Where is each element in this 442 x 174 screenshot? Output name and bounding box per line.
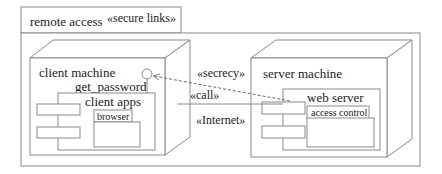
component-web-server-label: web server (307, 90, 364, 105)
access-control-body (307, 118, 374, 147)
package-name: remote access (30, 14, 103, 29)
server-node-side (387, 40, 412, 157)
node-client-machine: client machine get_password client apps … (30, 40, 190, 155)
component-port-1 (37, 104, 80, 115)
deployment-diagram: remote access «secure links» client mach… (0, 0, 442, 174)
internet-stereotype: «Internet» (196, 113, 245, 127)
browser-label: browser (97, 111, 130, 122)
component-port-2 (37, 127, 80, 138)
interface-label: get_password (75, 79, 147, 94)
access-control-label: access control (311, 107, 368, 118)
server-node-name: server machine (263, 66, 342, 81)
interface-circle-icon (142, 69, 152, 79)
server-node-top (251, 40, 412, 58)
call-label: «call» (190, 88, 219, 102)
client-node-name: client machine (39, 65, 115, 80)
server-port-2 (262, 126, 305, 138)
client-node-top (30, 40, 190, 58)
component-client-apps-label: client apps (85, 94, 141, 109)
secrecy-stereotype: «secrecy» (197, 66, 245, 80)
browser-body (94, 122, 140, 147)
package-stereotype: «secure links» (107, 11, 176, 25)
client-node-side (165, 40, 190, 155)
